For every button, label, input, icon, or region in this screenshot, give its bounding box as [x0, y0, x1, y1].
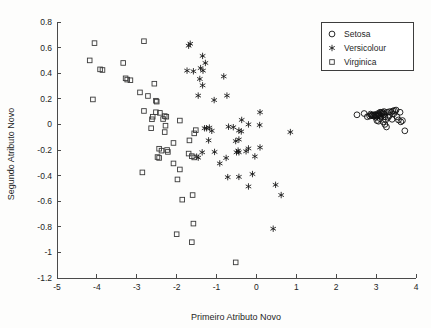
chart-legend: SetosaVersicolourVirginica	[321, 22, 413, 70]
data-point	[224, 92, 230, 98]
y-tick-label: -1.2	[37, 273, 52, 283]
data-markers-layer	[87, 39, 407, 265]
data-point	[190, 240, 195, 245]
y-tick-label: -0.8	[37, 222, 52, 232]
data-point	[142, 39, 147, 44]
y-tick-label: -0.4	[37, 171, 52, 181]
data-point	[163, 123, 168, 128]
x-tick-label: 3	[374, 282, 379, 292]
data-point	[206, 137, 212, 143]
y-tick-label: -0.2	[37, 145, 52, 155]
data-point	[212, 149, 218, 155]
data-point	[195, 92, 201, 98]
data-point	[142, 109, 147, 114]
data-point	[146, 94, 151, 99]
x-axis-ticks: -5-4-3-2-101234	[53, 274, 418, 292]
data-point	[121, 61, 126, 66]
data-point	[239, 128, 245, 134]
data-point	[171, 141, 176, 146]
series-versicolour	[184, 41, 293, 232]
x-axis-title: Primeiro Atributo Novo	[191, 312, 281, 322]
data-point	[149, 126, 154, 131]
y-tick-label: 0	[47, 119, 52, 129]
data-point	[174, 232, 179, 237]
data-point	[187, 138, 192, 143]
x-tick-label: -5	[53, 282, 61, 292]
data-point	[400, 118, 406, 124]
data-point	[226, 124, 232, 130]
x-tick-label: -1	[213, 282, 221, 292]
data-point	[233, 260, 238, 265]
data-point	[225, 174, 231, 180]
data-point	[278, 192, 284, 198]
y-tick-label: 0.6	[40, 43, 52, 53]
data-point	[87, 58, 92, 63]
data-point	[257, 144, 263, 150]
x-tick-label: 1	[294, 282, 299, 292]
data-point	[191, 221, 196, 226]
scatter-plot: -5-4-3-2-101234 0.80.60.40.20-0.2-0.4-0.…	[0, 0, 431, 328]
data-point	[140, 170, 145, 175]
data-point	[246, 183, 252, 189]
data-point	[203, 60, 209, 66]
data-point	[252, 153, 258, 159]
x-tick-label: -4	[93, 282, 101, 292]
data-point	[257, 122, 263, 128]
data-point	[223, 155, 229, 161]
data-point	[138, 90, 143, 95]
x-tick-label: -2	[173, 282, 181, 292]
data-point	[221, 73, 227, 79]
data-point	[288, 129, 294, 135]
y-tick-label: 0.4	[40, 68, 52, 78]
data-point	[123, 76, 128, 81]
x-tick-label: 0	[254, 282, 259, 292]
data-point	[180, 197, 185, 202]
data-point	[217, 160, 223, 166]
x-tick-label: 4	[414, 282, 419, 292]
data-point	[236, 174, 242, 180]
data-point	[175, 177, 180, 182]
y-tick-label: -1	[44, 247, 52, 257]
series-setosa	[354, 107, 408, 134]
data-point	[171, 161, 176, 166]
x-tick-label: 2	[334, 282, 339, 292]
data-point	[194, 128, 199, 133]
data-point	[197, 76, 203, 82]
data-point	[162, 130, 167, 135]
data-point	[250, 171, 256, 177]
data-point	[257, 109, 263, 115]
data-point	[91, 97, 96, 102]
data-point	[178, 118, 183, 123]
data-point	[402, 128, 408, 134]
data-point	[231, 124, 237, 130]
data-point	[361, 111, 367, 117]
data-point	[92, 41, 97, 46]
data-point	[184, 67, 190, 73]
figure-canvas: -5-4-3-2-101234 0.80.60.40.20-0.2-0.4-0.…	[0, 0, 431, 328]
data-point	[192, 131, 197, 136]
legend-label: Virginica	[344, 57, 377, 67]
data-point	[246, 121, 252, 127]
data-point	[239, 117, 245, 123]
y-axis-title: Segundo Atributo Novo	[6, 108, 16, 201]
data-point	[178, 167, 183, 172]
data-point	[273, 182, 279, 188]
data-point	[200, 82, 206, 88]
data-point	[354, 112, 360, 118]
data-point	[200, 53, 206, 59]
y-tick-label: 0.2	[40, 94, 52, 104]
y-tick-label: 0.8	[40, 17, 52, 27]
legend-label: Setosa	[344, 29, 371, 39]
x-tick-label: -3	[133, 282, 141, 292]
data-point	[211, 97, 217, 103]
legend-label: Versicolour	[344, 43, 386, 53]
y-tick-label: -0.6	[37, 196, 52, 206]
data-point	[270, 226, 276, 232]
data-point	[152, 81, 157, 86]
data-point	[190, 193, 195, 198]
data-point	[191, 68, 197, 74]
data-point	[199, 149, 205, 155]
data-point	[209, 128, 215, 134]
